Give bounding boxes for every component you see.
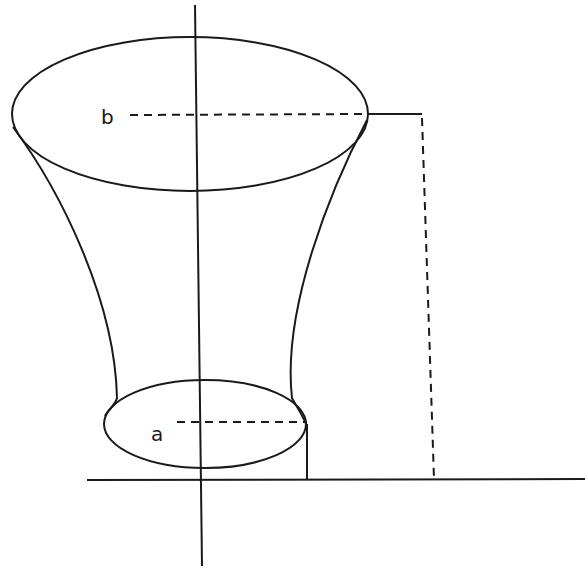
b-drop-dashed xyxy=(422,118,434,479)
left-profile-curve xyxy=(13,127,117,416)
bottom-ellipse xyxy=(104,380,306,468)
vertical-axis xyxy=(195,5,202,566)
revolution-diagram: b a xyxy=(0,0,585,574)
label-a: a xyxy=(151,422,163,446)
right-profile-curve xyxy=(291,120,367,424)
label-b: b xyxy=(101,105,114,129)
ground-line xyxy=(87,479,585,480)
b-radius-dashed xyxy=(130,114,367,115)
